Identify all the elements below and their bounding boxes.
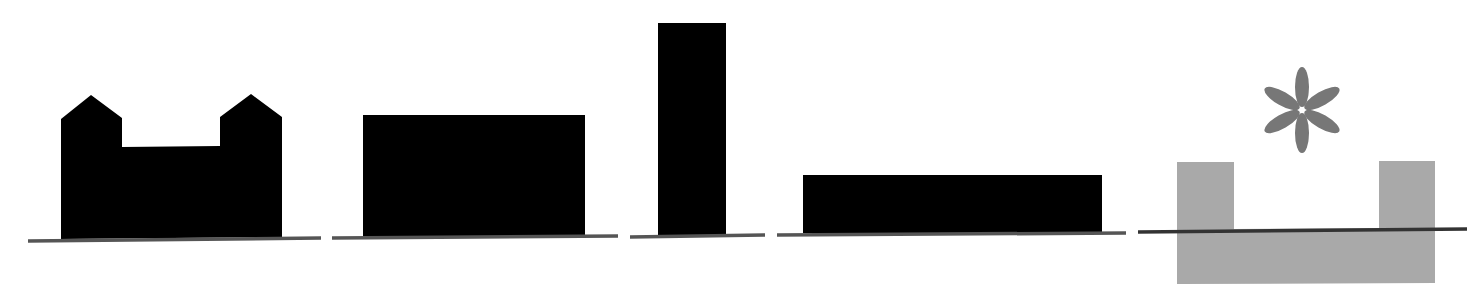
wide-block-building [363, 115, 585, 238]
ground-line-2 [332, 236, 618, 238]
tall-tower-building [658, 23, 726, 235]
sunken-u-building [1177, 161, 1435, 284]
figure-twin-gabled [28, 94, 321, 241]
long-low-building [803, 175, 1102, 233]
figure-wide-block [332, 115, 618, 238]
diagram-canvas [0, 0, 1483, 295]
figure-tall-tower [630, 23, 765, 237]
figure-sunken-u [1138, 67, 1467, 284]
ground-line-4 [777, 233, 1126, 235]
figure-long-low [777, 175, 1126, 235]
ground-line-3 [630, 235, 765, 237]
asterisk-icon [1261, 67, 1342, 153]
twin-gabled-building [61, 94, 282, 239]
